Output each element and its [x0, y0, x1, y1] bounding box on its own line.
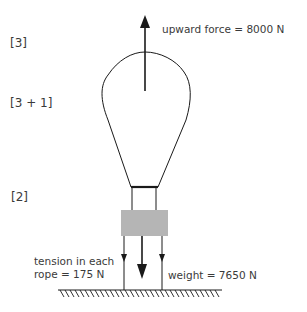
tension-label-line1: tension in each: [34, 255, 114, 267]
weight-arrowhead-icon: [137, 264, 147, 279]
balloon-force-diagram: [3] [3 + 1] [2] upward force = 8000 N te…: [0, 0, 307, 312]
tension-arrowhead-right-icon: [159, 254, 165, 262]
upward-force-arrowhead-icon: [140, 15, 150, 28]
tension-label-line2: rope = 175 N: [34, 268, 104, 280]
basket: [121, 210, 168, 236]
mark-label-3: [3]: [10, 36, 27, 50]
mark-label-2: [2]: [11, 190, 28, 204]
mark-label-3-plus-1: [3 + 1]: [10, 96, 52, 110]
balloon-envelope: [102, 52, 190, 187]
ground: [58, 290, 222, 297]
upward-force-label: upward force = 8000 N: [162, 23, 284, 35]
weight-label: weight = 7650 N: [168, 269, 257, 281]
tension-arrowhead-left-icon: [121, 254, 127, 262]
